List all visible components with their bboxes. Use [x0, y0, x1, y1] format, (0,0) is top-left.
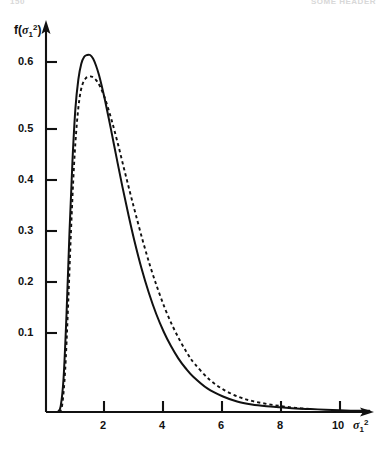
y-tick-label-0.6: 0.6	[18, 55, 33, 67]
y-tick-label-0.3: 0.3	[18, 224, 33, 236]
x-tick-label-10: 10	[332, 419, 344, 431]
figure-container: 150 SOME HEADER 0.1 0.2	[0, 0, 386, 461]
x-tick-label-8: 8	[277, 419, 283, 431]
page-header-right: SOME HEADER	[311, 0, 376, 6]
density-plot	[0, 0, 386, 461]
y-tick-label-0.5: 0.5	[18, 122, 33, 134]
x-tick-label-4: 4	[159, 419, 165, 431]
y-tick-label-0.4: 0.4	[18, 173, 33, 185]
x-tick-label-2: 2	[100, 419, 106, 431]
y-tick-label-0.2: 0.2	[18, 275, 33, 287]
page-header-left: 150	[10, 0, 25, 6]
x-tick-label-6: 6	[218, 419, 224, 431]
solid-density-curve	[58, 55, 370, 412]
x-axis-label: σ12	[353, 419, 368, 434]
y-tick-marks	[46, 62, 57, 333]
x-tick-marks	[104, 401, 340, 412]
dashed-density-curve	[59, 76, 310, 412]
y-axis-label: f(σ12)	[14, 24, 41, 39]
y-tick-label-0.1: 0.1	[18, 326, 33, 338]
